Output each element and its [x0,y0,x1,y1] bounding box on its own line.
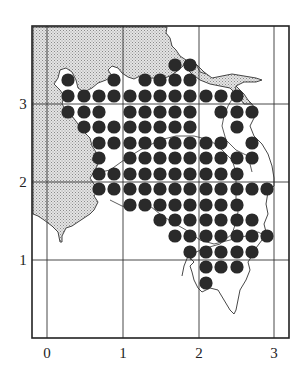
occurrence-dot [123,198,136,211]
occurrence-dot [123,182,136,195]
occurrence-dot [92,136,105,149]
occurrence-dot [199,182,212,195]
occurrence-dot [199,136,212,149]
distribution-map: 0123 321 [0,0,305,382]
occurrence-dot [153,120,166,133]
occurrence-dot [168,105,181,118]
occurrence-dot [123,151,136,164]
occurrence-dot [138,105,151,118]
occurrence-dot [183,213,196,226]
occurrence-dot [153,89,166,102]
occurrence-dot [183,182,196,195]
occurrence-dot [168,120,181,133]
occurrence-dot [92,120,105,133]
x-tick-label: 2 [195,345,203,361]
occurrence-dot [107,120,120,133]
occurrence-dot [183,229,196,242]
occurrence-dot [92,151,105,164]
y-axis-labels: 321 [19,96,27,268]
occurrence-dot [168,151,181,164]
occurrence-dots [61,58,273,289]
x-axis-labels: 0123 [43,345,278,361]
occurrence-dot [230,198,243,211]
occurrence-dot [214,89,227,102]
occurrence-dot [199,245,212,258]
occurrence-dot [230,151,243,164]
occurrence-dot [199,167,212,180]
occurrence-dot [214,260,227,273]
occurrence-dot [183,73,196,86]
occurrence-dot [183,58,196,71]
occurrence-dot [168,167,181,180]
x-tick-label: 3 [270,345,278,361]
occurrence-dot [214,136,227,149]
occurrence-dot [92,89,105,102]
occurrence-dot [92,105,105,118]
occurrence-dot [77,105,90,118]
y-tick-label: 1 [19,252,27,268]
y-tick-label: 2 [19,174,27,190]
occurrence-dot [168,182,181,195]
occurrence-dot [168,136,181,149]
occurrence-dot [153,213,166,226]
occurrence-dot [183,105,196,118]
occurrence-dot [183,167,196,180]
occurrence-dot [107,73,120,86]
occurrence-dot [199,276,212,289]
occurrence-dot [230,229,243,242]
occurrence-dot [214,151,227,164]
occurrence-dot [61,73,74,86]
occurrence-dot [153,73,166,86]
occurrence-dot [245,245,258,258]
occurrence-dot [214,167,227,180]
occurrence-dot [199,198,212,211]
occurrence-dot [214,245,227,258]
occurrence-dot [199,89,212,102]
occurrence-dot [92,167,105,180]
occurrence-dot [138,120,151,133]
x-tick-label: 0 [43,345,51,361]
occurrence-dot [183,245,196,258]
occurrence-dot [183,151,196,164]
occurrence-dot [123,167,136,180]
occurrence-dot [199,229,212,242]
occurrence-dot [138,151,151,164]
occurrence-dot [183,198,196,211]
occurrence-dot [61,105,74,118]
occurrence-dot [153,105,166,118]
occurrence-dot [123,136,136,149]
occurrence-dot [245,182,258,195]
occurrence-dot [77,120,90,133]
occurrence-dot [199,151,212,164]
occurrence-dot [245,136,258,149]
occurrence-dot [230,260,243,273]
occurrence-dot [138,73,151,86]
occurrence-dot [245,213,258,226]
occurrence-dot [183,136,196,149]
occurrence-dot [183,89,196,102]
occurrence-dot [138,182,151,195]
occurrence-dot [77,89,90,102]
occurrence-dot [214,198,227,211]
occurrence-dot [245,105,258,118]
occurrence-dot [123,89,136,102]
occurrence-dot [214,213,227,226]
occurrence-dot [230,213,243,226]
occurrence-dot [230,89,243,102]
occurrence-dot [153,198,166,211]
occurrence-dot [245,229,258,242]
occurrence-dot [123,105,136,118]
occurrence-dot [168,58,181,71]
occurrence-dot [107,167,120,180]
x-tick-label: 1 [119,345,127,361]
occurrence-dot [138,167,151,180]
occurrence-dot [168,89,181,102]
occurrence-dot [260,182,273,195]
occurrence-dot [168,73,181,86]
occurrence-dot [168,229,181,242]
occurrence-dot [168,198,181,211]
occurrence-dot [214,229,227,242]
occurrence-dot [168,213,181,226]
coastline [182,104,274,314]
y-tick-label: 3 [19,96,27,112]
